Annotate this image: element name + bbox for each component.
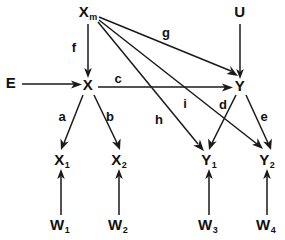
- edge-line-xm-y1: [98, 22, 198, 144]
- node-xm-base: X: [79, 3, 89, 20]
- edge-label-d: d: [219, 98, 227, 111]
- node-w4: W4: [256, 217, 276, 235]
- edge-label-i: i: [183, 97, 187, 110]
- edge-u-to-y: [236, 24, 244, 79]
- node-w1-sub: 1: [65, 225, 70, 235]
- node-w2-base: W: [108, 216, 122, 233]
- node-y2-sub: 2: [270, 160, 275, 170]
- node-y2-base: Y: [259, 151, 269, 168]
- node-y1-base: Y: [201, 151, 211, 168]
- edge-w2-to-x2: [115, 169, 123, 215]
- edge-line-x-x1: [64, 95, 83, 143]
- node-y: Y: [235, 78, 246, 96]
- node-x: X: [83, 77, 94, 95]
- edge-label-e: e: [260, 110, 267, 123]
- arrowhead-y-y1: [208, 139, 217, 150]
- node-u: U: [234, 4, 245, 22]
- edge-label-g: g: [162, 26, 170, 39]
- node-y-base: Y: [235, 77, 245, 94]
- edge-w4-to-y2: [263, 169, 271, 215]
- edge-w3-to-y1: [205, 169, 213, 215]
- node-w3-base: W: [198, 216, 212, 233]
- node-xm-sub: m: [89, 12, 97, 22]
- node-w3-sub: 3: [213, 225, 218, 235]
- edge-label-b: b: [106, 110, 114, 123]
- node-y1: Y1: [201, 152, 217, 170]
- node-u-base: U: [234, 3, 245, 20]
- node-x1-sub: 1: [65, 160, 70, 170]
- node-w4-sub: 4: [271, 225, 276, 235]
- node-x1: X1: [54, 152, 70, 170]
- node-y1-sub: 1: [212, 160, 217, 170]
- edge-label-c: c: [114, 72, 121, 85]
- node-x2: X2: [111, 152, 127, 170]
- arrowhead-xm-y: [227, 66, 238, 76]
- node-w2: W2: [108, 217, 128, 235]
- diagram-edges-layer: [0, 0, 285, 240]
- node-w2-sub: 2: [123, 225, 128, 235]
- node-w3: W3: [198, 217, 218, 235]
- node-x1-base: X: [54, 151, 64, 168]
- node-w1-base: W: [50, 216, 64, 233]
- node-x2-sub: 2: [122, 160, 127, 170]
- node-w4-base: W: [256, 216, 270, 233]
- node-x2-base: X: [111, 151, 121, 168]
- edge-e-to-x: [22, 80, 82, 88]
- node-x-base: X: [83, 76, 93, 93]
- edge-label-h: h: [155, 113, 163, 126]
- node-e: E: [6, 75, 17, 93]
- node-w1: W1: [50, 217, 70, 235]
- arrowhead-xm-y2: [252, 138, 263, 149]
- node-e-base: E: [6, 74, 16, 91]
- edge-label-a: a: [58, 110, 65, 123]
- edge-xm-to-x: [84, 24, 92, 78]
- edge-w1-to-x1: [57, 169, 65, 215]
- edge-label-f: f: [72, 41, 76, 54]
- node-xm: Xm: [79, 4, 98, 22]
- edge-line-xm-y2: [99, 20, 257, 144]
- node-y2: Y2: [259, 152, 275, 170]
- path-diagram: Xm U E X Y X1 X2 Y1 Y2 W1 W2 W3 W4 f g c…: [0, 0, 285, 240]
